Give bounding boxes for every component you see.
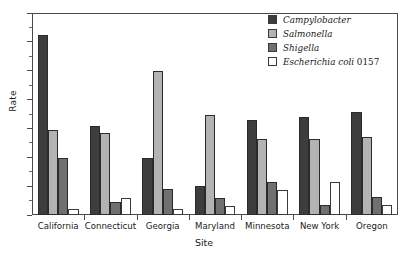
bar bbox=[247, 120, 257, 215]
bar bbox=[121, 198, 131, 215]
y-axis-major-tick bbox=[27, 128, 32, 129]
y-axis-major-tick bbox=[27, 70, 32, 71]
bar bbox=[257, 139, 267, 215]
y-axis-major-tick bbox=[27, 13, 32, 14]
bar-chart: Rate 05101520253035 CaliforniaConnecticu… bbox=[0, 0, 408, 255]
legend-item: Escherichia coli 0157 bbox=[268, 55, 396, 68]
bar bbox=[90, 126, 100, 215]
x-axis-tick bbox=[84, 215, 85, 220]
bar bbox=[58, 158, 68, 215]
legend-swatch-icon bbox=[268, 29, 277, 38]
y-axis-major-tick bbox=[27, 41, 32, 42]
y-axis-minor-tick bbox=[29, 27, 32, 28]
y-axis-minor-tick bbox=[29, 85, 32, 86]
bar bbox=[195, 186, 205, 215]
y-axis-minor-tick bbox=[29, 200, 32, 201]
bar bbox=[68, 209, 78, 215]
x-axis-tick bbox=[241, 215, 242, 220]
legend-item-label: Shigella bbox=[283, 43, 319, 53]
bar bbox=[215, 198, 225, 215]
bar bbox=[48, 130, 58, 215]
x-axis-tick bbox=[346, 215, 347, 220]
chart-legend: CampylobacterSalmonellaShigellaEscherich… bbox=[268, 13, 396, 69]
x-axis-tick bbox=[189, 215, 190, 220]
bar bbox=[372, 197, 382, 215]
bar bbox=[330, 182, 340, 215]
y-axis-minor-tick bbox=[29, 56, 32, 57]
bar bbox=[351, 112, 361, 215]
y-axis-major-tick bbox=[27, 157, 32, 158]
x-axis-title: Site bbox=[0, 237, 408, 248]
bar bbox=[110, 202, 120, 215]
legend-item: Campylobacter bbox=[268, 13, 396, 26]
bar bbox=[362, 137, 372, 215]
x-axis-tick-label: Georgia bbox=[146, 221, 180, 231]
bar bbox=[100, 133, 110, 215]
bar bbox=[267, 182, 277, 215]
legend-item: Shigella bbox=[268, 41, 396, 54]
bar bbox=[225, 206, 235, 215]
bar bbox=[309, 139, 319, 215]
x-axis-tick bbox=[293, 215, 294, 220]
legend-item-label: Salmonella bbox=[283, 29, 332, 39]
bar bbox=[173, 209, 183, 215]
bar bbox=[142, 158, 152, 215]
y-axis-major-tick bbox=[27, 99, 32, 100]
y-axis-minor-tick bbox=[29, 171, 32, 172]
x-axis-tick bbox=[137, 215, 138, 220]
legend-swatch-icon bbox=[268, 15, 277, 24]
y-axis-minor-tick bbox=[29, 114, 32, 115]
bar bbox=[153, 71, 163, 215]
x-axis-tick-label: Minnesota bbox=[245, 221, 289, 231]
x-axis-tick-label: Maryland bbox=[195, 221, 235, 231]
x-axis-tick-label: California bbox=[38, 221, 79, 231]
legend-item-label: Campylobacter bbox=[283, 15, 351, 25]
bar bbox=[205, 115, 215, 215]
bar bbox=[299, 117, 309, 215]
bar bbox=[277, 190, 287, 215]
legend-swatch-icon bbox=[268, 43, 277, 52]
x-axis-tick-label: Oregon bbox=[356, 221, 388, 231]
y-axis-title: Rate bbox=[8, 71, 18, 131]
x-axis-tick-label: New York bbox=[300, 221, 339, 231]
bar bbox=[320, 205, 330, 215]
bar bbox=[38, 35, 48, 215]
legend-item: Salmonella bbox=[268, 27, 396, 40]
bar bbox=[382, 205, 392, 215]
legend-item-label: Escherichia coli 0157 bbox=[283, 57, 379, 67]
y-axis-major-tick bbox=[27, 186, 32, 187]
y-axis-major-tick bbox=[27, 215, 32, 216]
y-axis-minor-tick bbox=[29, 142, 32, 143]
bar bbox=[163, 189, 173, 215]
x-axis-tick-label: Connecticut bbox=[85, 221, 136, 231]
legend-swatch-icon bbox=[268, 57, 277, 66]
